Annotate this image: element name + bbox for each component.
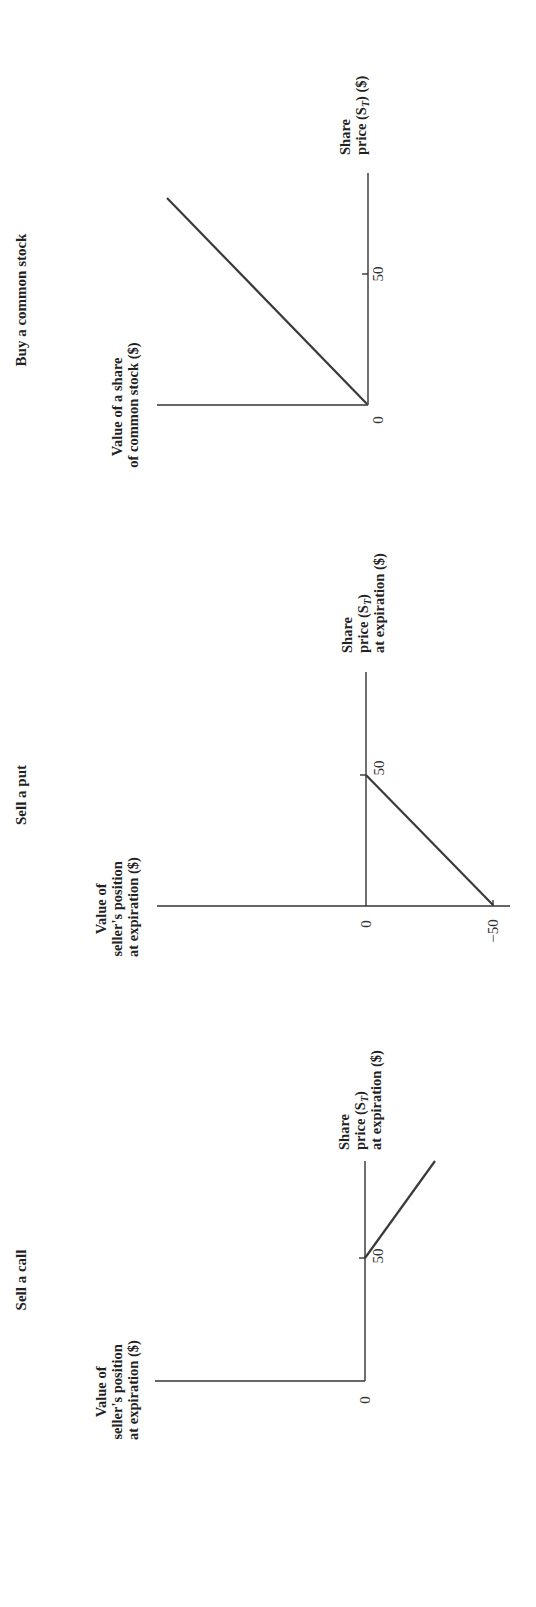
- payoff-line: [167, 198, 367, 404]
- panel-title: Buy a common stock: [13, 233, 29, 367]
- tick-label-neg50: −50: [485, 919, 501, 942]
- y-axis-label: Value of seller's position at expiration…: [93, 857, 142, 957]
- x-axis-label: Share price (ST) at expiration ($): [339, 553, 388, 653]
- payoff-diagrams-figure: Buy a common stock Value of a share of c…: [0, 0, 536, 1607]
- panel-title: Sell a call: [13, 1250, 29, 1311]
- tick-label-0: 0: [357, 1396, 373, 1404]
- x-axis-label: Share price (ST) ($): [337, 75, 371, 155]
- payoff-line: [366, 775, 493, 905]
- panel-title: Sell a put: [13, 765, 29, 825]
- tick-label-50: 50: [370, 1249, 386, 1264]
- payoff-line: [365, 1161, 435, 1258]
- panel-sell-call: Sell a call Value of seller's position a…: [13, 1050, 435, 1440]
- panel-sell-put: Sell a put Value of seller's position at…: [13, 553, 510, 957]
- tick-label-0: 0: [370, 416, 386, 424]
- tick-label-50: 50: [370, 267, 386, 282]
- y-axis-label: Value of a share of common stock ($): [109, 342, 142, 467]
- tick-label-0: 0: [358, 920, 374, 928]
- panel-buy-stock: Buy a common stock Value of a share of c…: [13, 75, 386, 467]
- tick-label-50: 50: [371, 761, 387, 776]
- x-axis-label: Share price (ST) at expiration ($): [336, 1050, 385, 1150]
- y-axis-label: Value of seller's position at expiration…: [93, 1340, 142, 1440]
